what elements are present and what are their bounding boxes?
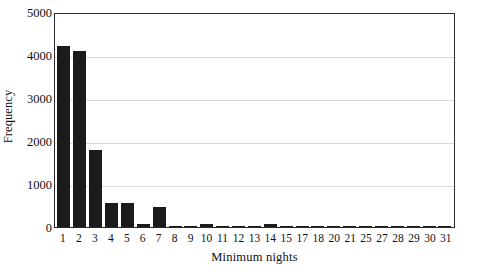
- x-axis-tick-label: 12: [230, 231, 246, 247]
- bar: [248, 226, 261, 227]
- bar: [280, 226, 293, 227]
- bar-cell: [326, 14, 342, 227]
- bar: [359, 226, 372, 227]
- bar: [89, 150, 102, 227]
- x-axis-tick-label: 17: [294, 231, 310, 247]
- bar-cell: [437, 14, 453, 227]
- bar-cell: [120, 14, 136, 227]
- x-axis-tick-labels: 1234567891011121314151718202125272829303…: [54, 231, 455, 247]
- chart-figure: Frequency 010002000300040005000 12345678…: [0, 0, 492, 277]
- bar: [423, 226, 436, 227]
- x-axis-tick-label: 13: [246, 231, 262, 247]
- bar-cell: [88, 14, 104, 227]
- bar: [438, 226, 451, 227]
- bar: [169, 226, 182, 227]
- x-axis-title: Minimum nights: [54, 250, 455, 265]
- bar: [311, 226, 324, 227]
- x-axis-tick-label: 25: [358, 231, 374, 247]
- x-axis-tick-label: 1: [55, 231, 71, 247]
- bar-cell: [374, 14, 390, 227]
- x-axis-tick-label: 20: [326, 231, 342, 247]
- x-axis-tick-label: 4: [103, 231, 119, 247]
- x-axis-tick-label: 14: [262, 231, 278, 247]
- x-axis-tick-label: 10: [199, 231, 215, 247]
- x-axis-tick-label: 3: [87, 231, 103, 247]
- x-axis-tick-label: 5: [119, 231, 135, 247]
- bar-cell: [421, 14, 437, 227]
- bar: [264, 224, 277, 227]
- bar-cell: [183, 14, 199, 227]
- bar: [296, 226, 309, 227]
- x-axis-tick-label: 8: [167, 231, 183, 247]
- bar: [57, 46, 70, 227]
- bar-cell: [278, 14, 294, 227]
- bar: [375, 226, 388, 227]
- x-axis-tick-label: 28: [390, 231, 406, 247]
- bar-series: [55, 14, 454, 227]
- y-axis-tick-labels: 010002000300040005000: [14, 0, 52, 240]
- bar: [121, 203, 134, 227]
- bar-cell: [310, 14, 326, 227]
- x-axis-tick-label: 9: [183, 231, 199, 247]
- x-axis-tick-label: 2: [71, 231, 87, 247]
- bar: [216, 226, 229, 227]
- bar: [184, 226, 197, 227]
- bar: [327, 226, 340, 227]
- x-axis-tick-label: 15: [278, 231, 294, 247]
- bar-cell: [72, 14, 88, 227]
- y-axis-tick-label: 4000: [14, 50, 52, 62]
- bar-cell: [262, 14, 278, 227]
- bar-cell: [56, 14, 72, 227]
- bar: [153, 207, 166, 227]
- bar-cell: [231, 14, 247, 227]
- y-axis-tick-label: 0: [14, 222, 52, 234]
- x-axis-tick-label: 6: [135, 231, 151, 247]
- bar: [343, 226, 356, 227]
- x-axis-tick-label: 31: [438, 231, 454, 247]
- plot-area: [54, 13, 455, 228]
- bar-cell: [215, 14, 231, 227]
- x-axis-tick-label: 27: [374, 231, 390, 247]
- bar-cell: [151, 14, 167, 227]
- x-axis-tick-label: 11: [215, 231, 231, 247]
- bar-cell: [358, 14, 374, 227]
- bar-cell: [405, 14, 421, 227]
- x-axis-tick-label: 18: [310, 231, 326, 247]
- bar-cell: [199, 14, 215, 227]
- bar: [200, 224, 213, 227]
- bar-cell: [294, 14, 310, 227]
- bar: [73, 51, 86, 227]
- bar-cell: [342, 14, 358, 227]
- bar: [137, 224, 150, 227]
- x-axis-tick-label: 21: [342, 231, 358, 247]
- bar: [391, 226, 404, 227]
- x-axis-tick-label: 29: [406, 231, 422, 247]
- x-axis-title-text: Minimum nights: [211, 250, 298, 264]
- x-axis-tick-label: 30: [422, 231, 438, 247]
- bar: [105, 203, 118, 227]
- bar-cell: [135, 14, 151, 227]
- y-axis-tick-label: 2000: [14, 136, 52, 148]
- bar-cell: [247, 14, 263, 227]
- bar-cell: [104, 14, 120, 227]
- x-axis-tick-label: 7: [151, 231, 167, 247]
- bar: [407, 226, 420, 227]
- y-axis-tick-label: 1000: [14, 179, 52, 191]
- bar-cell: [167, 14, 183, 227]
- bar-cell: [389, 14, 405, 227]
- bar: [232, 226, 245, 227]
- y-axis-tick-label: 3000: [14, 93, 52, 105]
- y-axis-tick-label: 5000: [14, 7, 52, 19]
